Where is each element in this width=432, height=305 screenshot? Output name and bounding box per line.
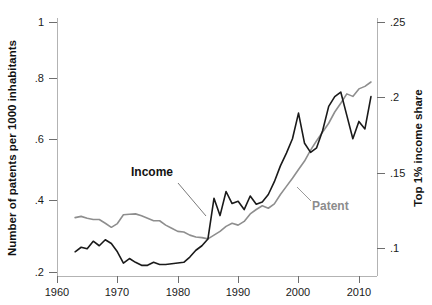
series-line-income bbox=[75, 92, 371, 265]
x-tick-label-1990: 1990 bbox=[226, 286, 250, 298]
chart-canvas: 1 .8 .6 .4 .2 .25 .2 .15 .1 1960 1970 bbox=[0, 0, 432, 305]
right-tick-label-015: .15 bbox=[390, 167, 405, 179]
left-axis-title: Number of patents per 1000 inhabitants bbox=[6, 40, 18, 256]
left-tick-label-02: .2 bbox=[35, 266, 44, 278]
annotation-patent-label: Patent bbox=[312, 199, 349, 213]
left-axis-ticks: 1 .8 .6 .4 .2 bbox=[35, 16, 57, 278]
right-axis-title: Top 1% income share bbox=[412, 89, 424, 206]
annotation-income-label: Income bbox=[131, 165, 173, 179]
x-axis-ticks: 1960 1970 1980 1990 2000 2010 bbox=[45, 276, 371, 298]
chart-figure: 1 .8 .6 .4 .2 .25 .2 .15 .1 1960 1970 bbox=[0, 0, 432, 305]
x-tick-label-1980: 1980 bbox=[166, 286, 190, 298]
left-tick-label-1: 1 bbox=[38, 16, 44, 28]
left-tick-label-06: .6 bbox=[35, 133, 44, 145]
x-tick-label-1960: 1960 bbox=[45, 286, 69, 298]
right-axis-ticks: .25 .2 .15 .1 bbox=[377, 16, 405, 254]
x-tick-label-1970: 1970 bbox=[105, 286, 129, 298]
left-tick-label-04: .4 bbox=[35, 194, 44, 206]
patent-leader-line bbox=[297, 187, 311, 201]
right-tick-label-025: .25 bbox=[390, 16, 405, 28]
income-leader-line bbox=[178, 183, 206, 216]
right-tick-label-02: .2 bbox=[390, 91, 399, 103]
x-tick-label-2000: 2000 bbox=[286, 286, 310, 298]
series-line-patent bbox=[75, 82, 371, 239]
right-tick-label-01: .1 bbox=[390, 242, 399, 254]
left-tick-label-08: .8 bbox=[35, 72, 44, 84]
x-tick-label-2010: 2010 bbox=[347, 286, 371, 298]
